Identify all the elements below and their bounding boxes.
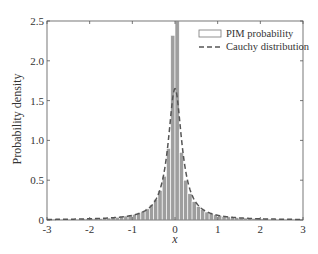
- legend: PIM probability Cauchy distribution: [199, 28, 310, 52]
- y-tick-labels: 00.51.01.52.02.5: [30, 15, 44, 226]
- x-tick-label: 2: [258, 223, 264, 235]
- histogram-bar: [175, 21, 179, 220]
- chart: -3-2-10123 00.51.01.52.02.5 x Probabilit…: [0, 0, 318, 254]
- legend-label-cauchy: Cauchy distribution: [226, 41, 310, 52]
- legend-box-swatch-icon: [199, 30, 221, 37]
- histogram-bar: [192, 202, 196, 220]
- histogram-bar: [171, 35, 175, 220]
- histogram-bar: [196, 206, 200, 220]
- x-axis-label: x: [171, 232, 178, 246]
- histogram-bar: [188, 194, 192, 220]
- y-tick-label: 1.5: [30, 95, 44, 107]
- x-tick-label: 1: [215, 223, 221, 235]
- legend-label-pim: PIM probability: [226, 28, 294, 39]
- histogram-bar: [179, 152, 183, 220]
- y-tick-label: 2.0: [30, 55, 44, 67]
- y-tick-label: 0.5: [30, 174, 44, 186]
- histogram-bar: [154, 199, 158, 220]
- y-axis-label: Probability density: [10, 74, 24, 165]
- histogram-bar: [209, 214, 213, 220]
- histogram-bar: [132, 214, 136, 220]
- x-tick-label: -1: [128, 223, 137, 235]
- histogram-bar: [166, 148, 170, 220]
- y-tick-label: 2.5: [30, 15, 44, 27]
- x-tick-label: 3: [300, 223, 306, 235]
- x-tick-label: -2: [85, 223, 94, 235]
- y-tick-label: 0: [39, 214, 45, 226]
- y-tick-label: 1.0: [30, 134, 44, 146]
- histogram-bar: [162, 176, 166, 220]
- histogram-bar: [184, 180, 188, 220]
